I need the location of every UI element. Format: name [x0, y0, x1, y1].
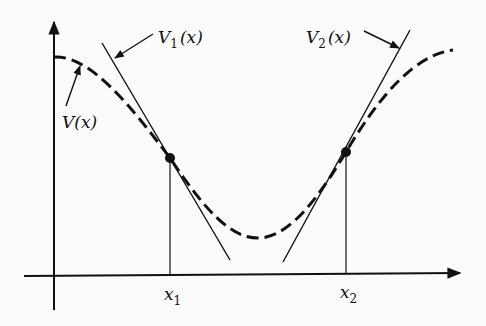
- x-axis: [24, 273, 460, 276]
- tick-label-x2: x2: [340, 282, 357, 306]
- v2-pointer-arrow: [364, 31, 399, 48]
- v-pointer-arrow: [66, 66, 80, 106]
- label-v2: V2(x): [306, 27, 351, 51]
- v1-pointer-arrow: [115, 34, 153, 58]
- label-v: V(x): [62, 112, 97, 132]
- point-x2: [341, 147, 351, 157]
- label-v1: V1(x): [158, 27, 203, 51]
- potential-curve: [54, 50, 453, 238]
- diagram-canvas: V1(x) V2(x) V(x) x1 x2: [0, 0, 486, 326]
- tangent-line-1: [102, 43, 230, 260]
- point-x1: [165, 153, 175, 163]
- tick-label-x1: x1: [164, 284, 181, 308]
